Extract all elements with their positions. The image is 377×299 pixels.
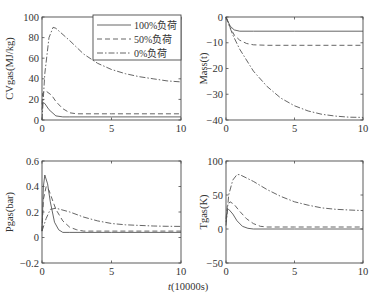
axes-box bbox=[42, 161, 181, 263]
y-tick-label: 100 bbox=[207, 156, 223, 167]
y-tick-label: 0.2 bbox=[26, 207, 39, 218]
y-tick-label: −0.2 bbox=[20, 258, 39, 269]
series-solid bbox=[42, 175, 181, 232]
y-axis-label: Pgas(bar) bbox=[4, 191, 16, 232]
x-tick-label: 0 bbox=[223, 266, 228, 277]
series-dashed bbox=[226, 202, 363, 227]
cv-gas-plot: 0510020406080100CVgas(MJ/kg)100%负荷50%负荷0… bbox=[4, 12, 186, 135]
y-tick-label: 0 bbox=[34, 115, 39, 126]
series-dashdot bbox=[226, 17, 363, 117]
y-tick-label: 80 bbox=[29, 32, 40, 43]
y-tick-label: −40 bbox=[207, 115, 223, 126]
series-dashed bbox=[42, 187, 181, 232]
y-axis-label: Tgas(K) bbox=[198, 194, 210, 229]
y-tick-label: −30 bbox=[207, 89, 223, 100]
x-tick-label: 10 bbox=[358, 266, 369, 277]
y-tick-label: 50 bbox=[213, 190, 224, 201]
x-tick-label: 0 bbox=[39, 266, 44, 277]
y-tick-label: 40 bbox=[29, 73, 40, 84]
p-gas-plot: 0510−0.200.20.40.6Pgas(bar) bbox=[4, 156, 186, 278]
y-tick-label: 100 bbox=[23, 12, 39, 23]
figure-canvas: 0510020406080100CVgas(MJ/kg)100%负荷50%负荷0… bbox=[0, 0, 377, 299]
y-axis-label: Mass(t) bbox=[198, 52, 210, 85]
legend-label: 100%负荷 bbox=[134, 19, 177, 31]
x-tick-label: 5 bbox=[109, 266, 114, 277]
y-tick-label: 0 bbox=[34, 232, 39, 243]
legend: 100%负荷50%负荷0%负荷 bbox=[93, 15, 181, 60]
y-tick-label: 60 bbox=[29, 53, 40, 64]
x-tick-label: 10 bbox=[176, 266, 187, 277]
y-tick-label: 20 bbox=[29, 94, 40, 105]
mass-plot: 0510−40−30−20−100Mass(t) bbox=[198, 12, 368, 135]
y-tick-label: 0 bbox=[218, 12, 223, 23]
x-tick-label: 5 bbox=[292, 123, 297, 134]
xlabel-text: (10000s) bbox=[171, 281, 208, 292]
x-tick-label: 5 bbox=[109, 123, 114, 134]
legend-label: 50%负荷 bbox=[134, 33, 172, 45]
y-tick-label: 0 bbox=[218, 224, 223, 235]
t-gas-plot: 0510−50050100Tgas(K) bbox=[198, 156, 368, 278]
series-dashdot bbox=[226, 175, 363, 226]
x-tick-label: 10 bbox=[358, 123, 369, 134]
y-tick-label: 0.6 bbox=[26, 156, 39, 167]
y-tick-label: 0.4 bbox=[26, 181, 40, 192]
y-tick-label: −50 bbox=[207, 258, 223, 269]
x-tick-label: 0 bbox=[223, 123, 228, 134]
x-tick-label: 10 bbox=[176, 123, 187, 134]
axes-box bbox=[226, 17, 363, 120]
series-dashdot bbox=[42, 208, 181, 231]
x-tick-label: 0 bbox=[39, 123, 44, 134]
y-tick-label: −10 bbox=[207, 37, 223, 48]
y-tick-label: −20 bbox=[207, 63, 223, 74]
axes-box bbox=[226, 161, 363, 263]
y-axis-label: CVgas(MJ/kg) bbox=[4, 37, 16, 100]
x-tick-label: 5 bbox=[292, 266, 297, 277]
legend-label: 0%负荷 bbox=[134, 47, 167, 59]
shared-xlabel: t(10000s) bbox=[168, 281, 208, 292]
series-solid bbox=[42, 103, 181, 117]
series-dashed bbox=[42, 91, 181, 114]
